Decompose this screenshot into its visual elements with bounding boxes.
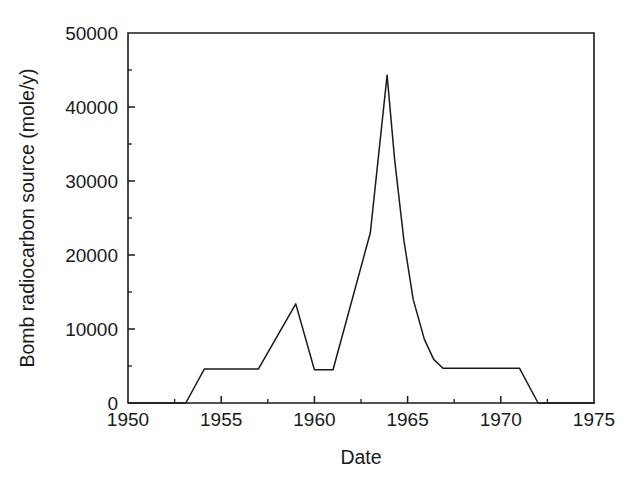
- y-axis-title: Bomb radiocarbon source (mole/y): [16, 68, 38, 367]
- y-tick-label-10000: 10000: [65, 319, 118, 340]
- y-tick-label-40000: 40000: [65, 97, 118, 118]
- x-tick-label-1970: 1970: [480, 409, 522, 430]
- x-tick-label-1950: 1950: [107, 409, 149, 430]
- y-tick-label-50000: 50000: [65, 23, 118, 44]
- x-tick-label-1955: 1955: [200, 409, 242, 430]
- x-axis-tick-labels: 195019551960196519701975: [107, 409, 615, 430]
- x-tick-label-1965: 1965: [386, 409, 428, 430]
- plot-frame: [128, 33, 594, 403]
- data-series-bomb-radiocarbon-source: [128, 75, 594, 403]
- chart-svg: 01000020000300004000050000 1950195519601…: [0, 0, 627, 477]
- y-axis-tick-labels: 01000020000300004000050000: [65, 23, 118, 414]
- chart-figure: 01000020000300004000050000 1950195519601…: [0, 0, 627, 477]
- y-tick-label-30000: 30000: [65, 171, 118, 192]
- x-tick-label-1975: 1975: [573, 409, 615, 430]
- x-tick-label-1960: 1960: [293, 409, 335, 430]
- y-tick-label-20000: 20000: [65, 245, 118, 266]
- x-axis-title: Date: [340, 446, 381, 468]
